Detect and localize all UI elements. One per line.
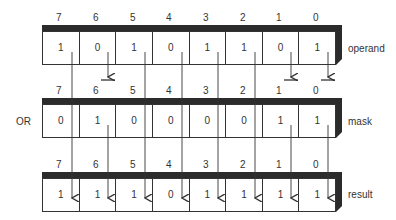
- bit-flow-arrows: [0, 0, 396, 220]
